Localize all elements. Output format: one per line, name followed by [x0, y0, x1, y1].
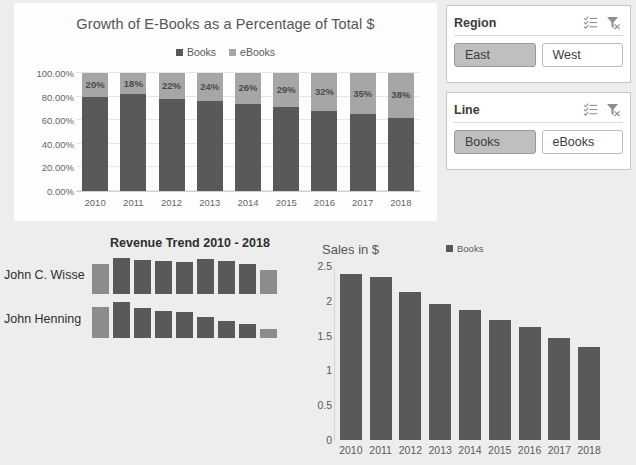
- revenue-trend-title: Revenue Trend 2010 - 2018: [92, 236, 288, 250]
- sparkline-bar: [92, 307, 109, 338]
- stacked-bar-column: 18%: [120, 73, 146, 191]
- stacked-bar-column: 24%: [197, 73, 223, 191]
- legend-item-books: Books: [176, 46, 216, 58]
- bar-segment-ebooks: 38%: [388, 73, 414, 118]
- slicer-line[interactable]: Line Books eBooks: [446, 92, 631, 170]
- x-axis-tick-label: 2011: [118, 197, 148, 208]
- bar-segment-ebooks: 22%: [159, 73, 185, 99]
- x-axis-tick-label: 2014: [233, 197, 263, 208]
- slicer-region-header: Region: [454, 10, 623, 36]
- sparkline-row: John Henning: [0, 298, 290, 340]
- bar-segment-books: [311, 111, 337, 191]
- stacked-bar-column: 32%: [311, 73, 337, 191]
- slicer-line-header: Line: [454, 97, 623, 123]
- slicer-region-items: East West: [454, 43, 623, 67]
- y-axis-tick-label: 0.00%: [20, 186, 74, 197]
- y-axis-tick-label: 2: [296, 295, 332, 307]
- sales-chart-x-axis: 201020112012201320142015201620172018: [336, 442, 604, 460]
- stacked-chart-axis-line: [76, 191, 420, 192]
- bar-segment-ebooks: 26%: [235, 73, 261, 104]
- sales-chart-legend: Books: [446, 243, 483, 254]
- sparkline-row-label: John C. Wisse: [0, 268, 92, 282]
- sparkline-bar: [218, 261, 235, 294]
- sparkline-bar: [155, 311, 172, 338]
- sparkline-bar: [134, 308, 151, 338]
- sales-bar: [399, 292, 421, 440]
- x-axis-tick-label: 2010: [80, 197, 110, 208]
- y-axis-tick-label: 20.00%: [20, 162, 74, 173]
- sparkline-bar: [176, 262, 193, 294]
- sales-chart-panel[interactable]: Sales in $ Books 00.511.522.5 2010201120…: [296, 230, 636, 465]
- bar-data-label: 24%: [200, 81, 219, 92]
- sales-bar: [340, 274, 362, 440]
- bar-segment-books: [273, 107, 299, 191]
- x-axis-tick-label: 2013: [195, 197, 225, 208]
- sales-chart-y-axis: 00.511.522.5: [296, 260, 332, 446]
- y-axis-tick-label: 0.5: [296, 399, 332, 411]
- sales-bar: [370, 277, 392, 440]
- sparkline-bar: [113, 302, 130, 338]
- stacked-bar-column: 35%: [350, 73, 376, 191]
- y-axis-tick-label: 60.00%: [20, 115, 74, 126]
- sparkline-bar: [113, 258, 130, 294]
- stacked-percent-chart-panel[interactable]: Growth of E-Books as a Percentage of Tot…: [14, 3, 437, 221]
- slicer-region[interactable]: Region East West: [446, 5, 631, 83]
- stacked-chart-plot-area: 20%18%22%24%26%29%32%35%38%: [76, 73, 420, 191]
- sparkline-bar: [218, 321, 235, 338]
- x-axis-tick-label: 2018: [572, 444, 606, 456]
- sales-chart-y-spine: [334, 268, 335, 440]
- sales-bar: [519, 327, 541, 440]
- sales-bar: [489, 320, 511, 440]
- sales-bar: [429, 304, 451, 440]
- sparkline-bar: [260, 270, 277, 294]
- slicer-line-item-books[interactable]: Books: [454, 130, 536, 154]
- bar-segment-books: [235, 104, 261, 191]
- y-axis-tick-label: 1.5: [296, 330, 332, 342]
- sparkline-bar: [239, 324, 256, 338]
- x-axis-tick-label: 2015: [271, 197, 301, 208]
- sparkline-bar: [176, 312, 193, 338]
- x-axis-tick-label: 2016: [309, 197, 339, 208]
- sales-chart-plot-area: [336, 266, 604, 440]
- stacked-bar-column: 38%: [388, 73, 414, 191]
- sales-bar: [578, 347, 600, 440]
- stacked-bar-column: 20%: [82, 73, 108, 191]
- slicer-region-item-east[interactable]: East: [454, 43, 536, 67]
- sparkline-bar: [155, 261, 172, 294]
- revenue-trend-sparkline-panel[interactable]: Revenue Trend 2010 - 2018 John C. WisseJ…: [0, 228, 290, 338]
- sparkline-row: John C. Wisse: [0, 254, 290, 296]
- multi-select-icon[interactable]: [580, 14, 600, 32]
- slicer-region-title: Region: [454, 16, 577, 30]
- legend-swatch-books: [446, 245, 453, 252]
- clear-filter-icon[interactable]: [603, 14, 623, 32]
- stacked-bar-column: 29%: [273, 73, 299, 191]
- stacked-chart-y-axis: 0.00%20.00%40.00%60.00%80.00%100.00%: [20, 67, 74, 197]
- legend-label-ebooks: eBooks: [240, 46, 275, 58]
- bar-data-label: 18%: [124, 78, 143, 89]
- legend-label-books: Books: [187, 46, 216, 58]
- bar-data-label: 22%: [162, 80, 181, 91]
- legend-item-ebooks: eBooks: [229, 46, 275, 58]
- sparkline-bar: [134, 260, 151, 294]
- slicer-line-title: Line: [454, 103, 577, 117]
- slicer-region-item-west[interactable]: West: [542, 43, 624, 67]
- y-axis-tick-label: 40.00%: [20, 138, 74, 149]
- y-axis-tick-label: 100.00%: [20, 68, 74, 79]
- sales-bar: [459, 310, 481, 440]
- y-axis-tick-label: 0: [296, 434, 332, 446]
- sparkline-bar: [197, 259, 214, 294]
- x-axis-tick-label: 2017: [348, 197, 378, 208]
- stacked-chart-title: Growth of E-Books as a Percentage of Tot…: [14, 16, 437, 32]
- y-axis-tick-label: 2.5: [296, 260, 332, 272]
- y-axis-tick-label: 80.00%: [20, 91, 74, 102]
- slicer-line-item-ebooks[interactable]: eBooks: [542, 130, 624, 154]
- bar-segment-ebooks: 32%: [311, 73, 337, 111]
- clear-filter-icon[interactable]: [603, 101, 623, 119]
- sales-chart-axis-title: Sales in $: [322, 242, 379, 257]
- multi-select-icon[interactable]: [580, 101, 600, 119]
- bar-data-label: 38%: [391, 89, 410, 100]
- bar-data-label: 26%: [238, 82, 257, 93]
- legend-swatch-ebooks: [229, 49, 236, 56]
- y-axis-tick-label: 1: [296, 364, 332, 376]
- bar-segment-ebooks: 24%: [197, 73, 223, 101]
